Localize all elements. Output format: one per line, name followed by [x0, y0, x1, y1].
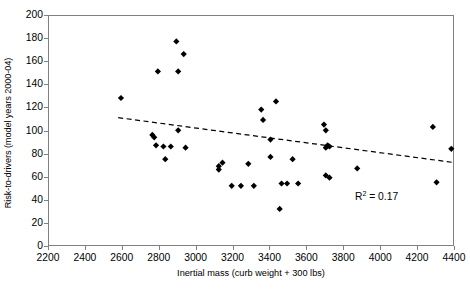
- data-point: [155, 68, 161, 74]
- y-tick-label: 100: [13, 126, 43, 136]
- data-point: [284, 180, 290, 186]
- y-tick-label: 80: [13, 149, 43, 159]
- y-tick-label: 60: [13, 172, 43, 182]
- data-point: [245, 161, 251, 167]
- data-point: [173, 38, 179, 44]
- x-tick-label: 4400: [432, 252, 470, 263]
- data-point: [181, 51, 187, 57]
- data-point: [168, 143, 174, 149]
- x-tick-mark: [48, 246, 49, 250]
- x-tick-mark: [306, 246, 307, 250]
- y-tick-label: 20: [13, 218, 43, 228]
- data-point: [160, 143, 166, 149]
- data-point: [251, 183, 257, 189]
- data-point: [258, 106, 264, 112]
- data-point: [267, 136, 273, 142]
- data-point: [323, 127, 329, 133]
- data-point: [175, 127, 181, 133]
- data-point: [290, 156, 296, 162]
- plot-canvas: [49, 16, 455, 247]
- data-point: [321, 121, 327, 127]
- data-point: [273, 98, 279, 104]
- data-point: [175, 68, 181, 74]
- data-point: [430, 124, 436, 130]
- data-point: [153, 142, 159, 148]
- y-tick-label: 0: [13, 241, 43, 251]
- plot-area: [48, 15, 454, 246]
- x-tick-mark: [85, 246, 86, 250]
- data-point: [238, 183, 244, 189]
- data-point: [229, 183, 235, 189]
- x-tick-mark: [343, 246, 344, 250]
- trendline: [118, 118, 455, 163]
- data-point: [162, 156, 168, 162]
- y-tick-label: 160: [13, 56, 43, 66]
- r-squared-value: = 0.17: [366, 191, 398, 202]
- x-axis-title: Inertial mass (curb weight + 300 lbs): [48, 267, 454, 279]
- data-point: [278, 180, 284, 186]
- x-tick-mark: [380, 246, 381, 250]
- data-point: [260, 117, 266, 123]
- x-tick-mark: [233, 246, 234, 250]
- trendline-path: [118, 118, 455, 163]
- data-points: [118, 38, 455, 212]
- x-tick-mark: [269, 246, 270, 250]
- data-point: [182, 145, 188, 151]
- data-point: [295, 180, 301, 186]
- y-axis-tick-labels: 200180160140120100806040200: [13, 0, 43, 290]
- x-tick-mark: [417, 246, 418, 250]
- y-tick-label: 200: [13, 10, 43, 20]
- x-tick-mark: [196, 246, 197, 250]
- data-point: [354, 165, 360, 171]
- x-tick-mark: [159, 246, 160, 250]
- r-squared-annotation: R2 = 0.17: [355, 191, 398, 203]
- data-point: [267, 154, 273, 160]
- data-point: [433, 179, 439, 185]
- y-tick-label: 120: [13, 102, 43, 112]
- data-point: [118, 95, 124, 101]
- data-point: [277, 206, 283, 212]
- y-tick-label: 140: [13, 79, 43, 89]
- y-tick-label: 180: [13, 33, 43, 43]
- y-tick-label: 40: [13, 195, 43, 205]
- data-point: [448, 146, 454, 152]
- x-tick-mark: [122, 246, 123, 250]
- x-tick-mark: [454, 246, 455, 250]
